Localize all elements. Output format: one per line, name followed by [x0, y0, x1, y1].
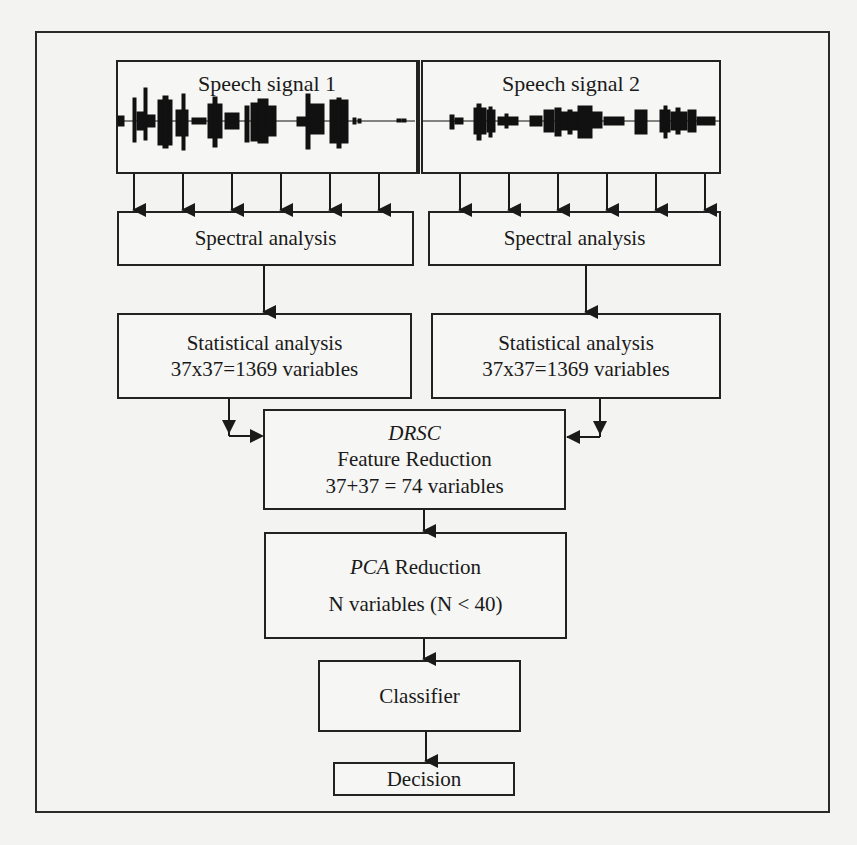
- drsc-sublabel: 37+37 = 74 variables: [325, 473, 503, 499]
- classifier-label: Classifier: [379, 683, 459, 709]
- statistical-analysis-1-sublabel: 37x37=1369 variables: [171, 356, 358, 382]
- pca-title: PCA Reduction: [350, 549, 481, 586]
- statistical-analysis-2-box: Statistical analysis 37x37=1369 variable…: [431, 313, 721, 399]
- speech-signal-2-box: Speech signal 2: [421, 60, 721, 174]
- statistical-analysis-1-label: Statistical analysis: [187, 330, 343, 356]
- pca-label: PCA: [350, 555, 390, 579]
- statistical-analysis-2-label: Statistical analysis: [498, 330, 654, 356]
- statistical-analysis-1-box: Statistical analysis 37x37=1369 variable…: [117, 313, 412, 399]
- speech-signal-2-label: Speech signal 2: [502, 70, 640, 98]
- drsc-feature-reduction-box: DRSC Feature Reduction 37+37 = 74 variab…: [263, 409, 566, 510]
- pca-label-suffix: Reduction: [390, 555, 482, 579]
- decision-label: Decision: [387, 766, 462, 792]
- spectral-analysis-2-box: Spectral analysis: [428, 211, 721, 266]
- spectral-analysis-2-label: Spectral analysis: [504, 225, 646, 251]
- speech-signal-1-label: Speech signal 1: [198, 70, 336, 98]
- feature-reduction-label: Feature Reduction: [337, 446, 492, 472]
- pca-reduction-box: PCA Reduction N variables (N < 40): [264, 532, 567, 639]
- classifier-box: Classifier: [318, 660, 521, 732]
- spectral-analysis-1-box: Spectral analysis: [117, 211, 414, 266]
- drsc-label: DRSC: [388, 420, 441, 446]
- speech-signal-1-box: Speech signal 1: [116, 60, 418, 174]
- spectral-analysis-1-label: Spectral analysis: [195, 225, 337, 251]
- decision-box: Decision: [333, 762, 515, 796]
- pca-sublabel: N variables (N < 40): [329, 586, 503, 623]
- statistical-analysis-2-sublabel: 37x37=1369 variables: [482, 356, 669, 382]
